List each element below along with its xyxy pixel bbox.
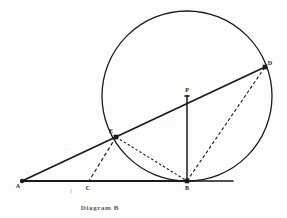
point-marker-B [185,179,190,184]
geometry-diagram: ACBEPD ···l Diagram B [0,0,287,218]
point-label-group: ACBEPD [16,60,273,191]
sub-base-mark: l [70,188,72,194]
interior-dot: · [167,120,169,126]
point-marker-D [263,65,268,70]
point-label-B: B [185,185,189,191]
secant-line-A-D [22,67,265,181]
solid-line-group [22,67,265,181]
point-marker-E [114,135,119,140]
point-label-A: A [16,183,21,189]
figure-caption: Diagram B [81,204,119,212]
chord-E-B [116,137,187,181]
tick-on-secant: · [65,147,67,153]
point-label-C: C [86,185,90,191]
point-marker-A [20,179,24,183]
chord-B-D [187,67,265,181]
point-label-P: P [185,87,189,93]
tick-above-E: · [109,119,111,125]
faint-mark-group: ···l [65,119,169,194]
figure-container: ACBEPD ···l Diagram B [0,0,287,218]
point-label-E: E [109,128,113,134]
point-label-D: D [268,60,273,66]
